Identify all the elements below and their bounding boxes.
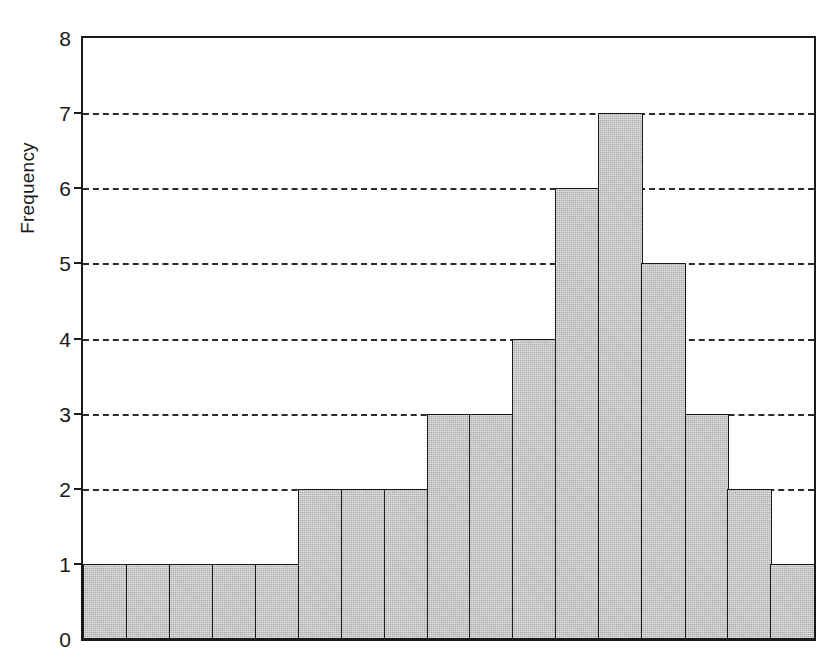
histogram-bar: [83, 564, 128, 639]
histogram-bar: [126, 564, 171, 639]
histogram-bar: [770, 564, 815, 639]
histogram-bar: [298, 489, 343, 639]
histogram-bar: [427, 414, 472, 639]
histogram-bar: [512, 339, 557, 640]
histogram-bar: [341, 489, 386, 639]
plot-area: [81, 36, 816, 641]
plot-inner: [83, 38, 814, 639]
y-tick-mark-6: [74, 187, 82, 189]
y-tick-mark-4: [74, 338, 82, 340]
histogram-bar: [169, 564, 214, 639]
y-tick-mark-7: [74, 112, 82, 114]
y-tick-label-5: 5: [11, 253, 71, 274]
y-tick-label-3: 3: [11, 403, 71, 424]
y-tick-label-2: 2: [11, 478, 71, 499]
y-tick-mark-2: [74, 488, 82, 490]
histogram-bar: [641, 263, 686, 639]
y-tick-label-0: 0: [11, 629, 71, 650]
histogram-bar: [727, 489, 772, 639]
y-tick-mark-5: [74, 262, 82, 264]
y-tick-label-1: 1: [11, 553, 71, 574]
histogram-bar: [212, 564, 257, 639]
histogram-bar: [684, 414, 729, 639]
y-tick-label-8: 8: [11, 28, 71, 49]
histogram-bar: [469, 414, 514, 639]
histogram-figure: Frequency 012345678: [0, 0, 836, 666]
histogram-bar: [255, 564, 300, 639]
y-tick-label-6: 6: [11, 178, 71, 199]
y-tick-label-7: 7: [11, 103, 71, 124]
y-tick-mark-1: [74, 563, 82, 565]
y-tick-label-4: 4: [11, 328, 71, 349]
histogram-bar: [598, 113, 643, 639]
y-tick-mark-3: [74, 413, 82, 415]
histogram-bar: [384, 489, 429, 639]
histogram-bar: [555, 188, 600, 639]
bars-group: [83, 38, 814, 639]
